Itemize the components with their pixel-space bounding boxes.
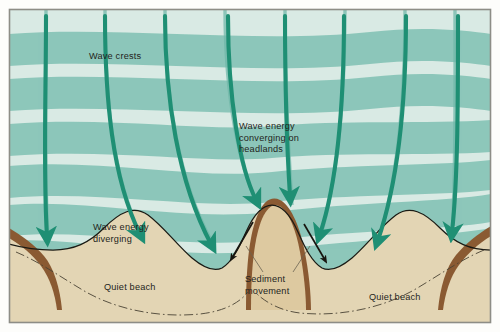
label-quiet-beach-right: Quiet beach [369, 292, 421, 304]
label-sediment-movement: Sediment movement [245, 274, 289, 297]
label-wave-crests: Wave crests [89, 51, 141, 63]
label-energy-diverging: Wave energy diverging [93, 222, 149, 245]
label-energy-converging: Wave energy converging on headlands [239, 121, 299, 156]
energy-arrow-diverging-far-left [45, 16, 47, 236]
wave-refraction-figure: Wave crests Wave energy converging on he… [0, 0, 500, 332]
label-quiet-beach-left: Quiet beach [104, 282, 156, 294]
